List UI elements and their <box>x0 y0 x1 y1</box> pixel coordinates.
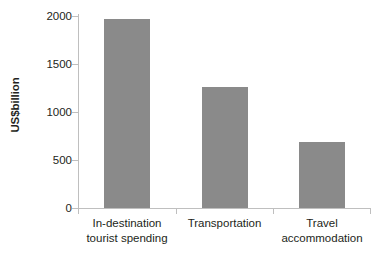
bar-chart: US$billion 2000 1500 1000 500 0 In-desti… <box>0 0 383 266</box>
y-tick-label-0: 0 <box>26 202 72 214</box>
x-axis-category-labels: In-destination tourist spending Transpor… <box>78 216 371 264</box>
y-tick-label-500: 500 <box>26 154 72 166</box>
y-tick-label-1000: 1000 <box>26 106 72 118</box>
y-axis-title-text: US$billion <box>9 77 21 132</box>
x-category-label-2-line2: accommodation <box>273 231 371 246</box>
x-category-label-0-line2: tourist spending <box>78 231 176 246</box>
x-axis-line <box>78 208 371 209</box>
x-tick-mark-1 <box>176 209 177 214</box>
y-axis-tick-labels: 2000 1500 1000 500 0 <box>24 0 72 220</box>
bars-layer <box>78 14 371 208</box>
x-category-label-0-line1: In-destination <box>92 217 161 229</box>
x-category-label-2: Travel accommodation <box>273 216 371 245</box>
bar-transportation <box>202 87 248 208</box>
y-tick-label-2000: 2000 <box>26 10 72 22</box>
bar-in-destination-tourist-spending <box>104 19 150 208</box>
x-tick-mark-0 <box>78 209 79 214</box>
x-category-label-0: In-destination tourist spending <box>78 216 176 245</box>
x-tick-mark-3 <box>370 209 371 214</box>
x-category-label-1-line1: Transportation <box>188 217 262 229</box>
x-category-label-1: Transportation <box>176 216 273 231</box>
y-tick-label-1500: 1500 <box>26 58 72 70</box>
x-tick-mark-2 <box>273 209 274 214</box>
x-category-label-2-line1: Travel <box>306 217 338 229</box>
bar-travel-accommodation <box>299 142 345 208</box>
